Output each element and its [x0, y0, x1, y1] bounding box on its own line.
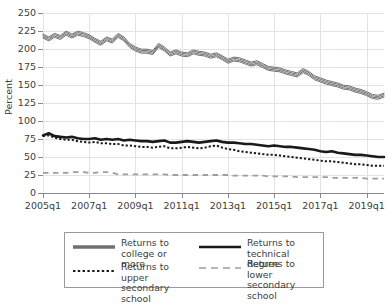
legend-key-upper-secondary-line: [72, 266, 116, 276]
x-tick-mark: [135, 193, 136, 198]
x-tick-mark: [43, 193, 44, 198]
legend: Returns to college or more Returns to te…: [64, 232, 324, 288]
y-axis-label-wrap: 175: [0, 62, 36, 72]
x-tick-mark: [320, 193, 321, 198]
x-tick-mark: [367, 193, 368, 198]
legend-label-upper-secondary: Returns to upper secondary school: [121, 262, 194, 304]
x-tick-mark: [274, 193, 275, 198]
legend-label-lower-secondary: Returns to lower secondary school: [247, 259, 320, 301]
x-axis-label: 2013q1: [210, 200, 246, 211]
legend-item-upper-secondary: Returns to upper secondary school: [72, 262, 194, 304]
y-axis-label-wrap: 250: [0, 8, 36, 18]
y-axis-label-wrap: 100: [0, 116, 36, 126]
y-axis-label: 0: [0, 188, 36, 198]
y-axis-label-wrap: 150: [0, 80, 36, 90]
series-line-lower-secondary: [43, 172, 384, 178]
series-line-college: [43, 34, 384, 98]
y-axis-label-wrap: 200: [0, 44, 36, 54]
y-axis-label: 125: [0, 98, 36, 108]
x-tick-mark: [228, 193, 229, 198]
y-axis-label-wrap: 225: [0, 26, 36, 36]
y-axis-label: 75: [0, 134, 36, 144]
y-axis-label: 150: [0, 80, 36, 90]
y-axis-label-wrap: 75: [0, 134, 36, 144]
y-axis-label: 50: [0, 152, 36, 162]
y-axis-label: 25: [0, 170, 36, 180]
y-axis-label-wrap: 25: [0, 170, 36, 180]
x-axis-label: 2019q1: [349, 200, 385, 211]
legend-item-lower-secondary: Returns to lower secondary school: [198, 259, 320, 301]
x-axis-label: 2017q1: [302, 200, 338, 211]
y-axis-label: 175: [0, 62, 36, 72]
x-axis-label: 2009q1: [117, 200, 153, 211]
legend-key-lower-secondary-line: [198, 263, 242, 273]
x-axis-label: 2005q1: [25, 200, 61, 211]
x-tick-mark: [182, 193, 183, 198]
y-axis-label: 100: [0, 116, 36, 126]
x-tick-mark: [89, 193, 90, 198]
series-plot: [43, 13, 384, 193]
x-axis-label: 2011q1: [164, 200, 200, 211]
x-axis-label: 2007q1: [71, 200, 107, 211]
legend-key-college-line: [72, 242, 116, 252]
y-axis-label: 200: [0, 44, 36, 54]
x-axis-label: 2015q1: [256, 200, 292, 211]
legend-key-technical-line: [198, 242, 242, 252]
x-axis-line: [43, 193, 384, 194]
y-axis-label-wrap: 50: [0, 152, 36, 162]
y-axis-label: 250: [0, 8, 36, 18]
y-axis-label: 225: [0, 26, 36, 36]
series-line-college: [43, 35, 384, 99]
y-axis-label-wrap: 0: [0, 188, 36, 198]
y-axis-label-wrap: 125: [0, 98, 36, 108]
